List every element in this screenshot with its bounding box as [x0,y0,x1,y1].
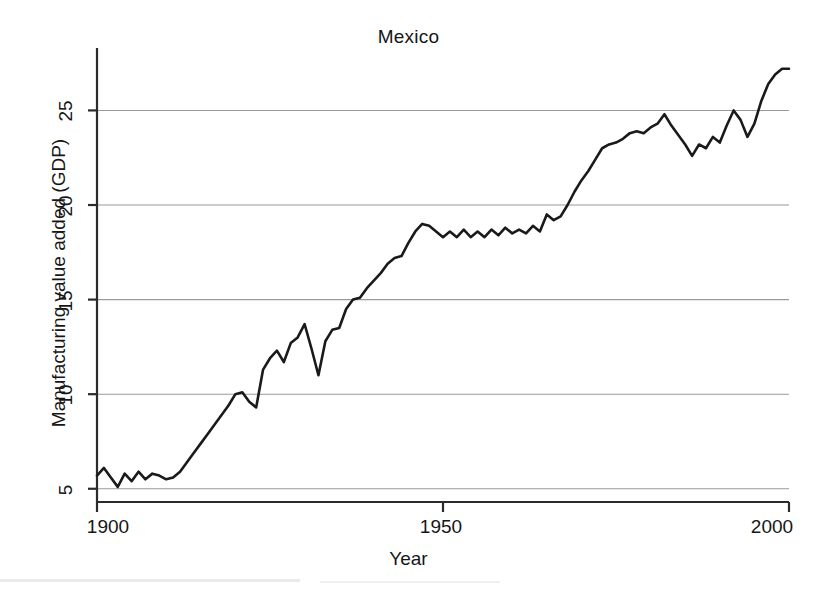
gridlines [97,110,789,488]
chart-figure: Mexico Manufacturing value added (GDP) Y… [0,0,817,590]
page-scan-artifact [0,575,817,590]
plot-canvas [0,0,817,590]
axis-lines [97,48,789,502]
data-series-line [97,69,789,487]
